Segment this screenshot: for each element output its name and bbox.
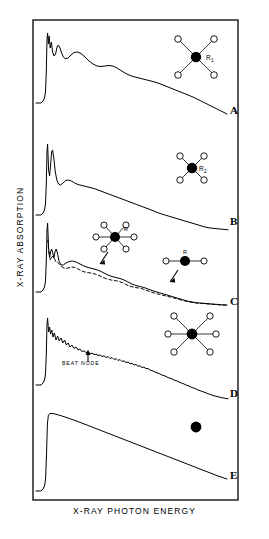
neighbor-atom	[93, 234, 99, 240]
molecule-cluster-b: R 2	[177, 153, 207, 183]
neighbor-atom	[131, 234, 137, 240]
neighbor-atom	[201, 177, 207, 183]
molecule-cluster-c-octahedral: R	[93, 222, 137, 265]
cluster-label-c2: R	[183, 249, 187, 255]
neighbor-atom	[165, 331, 171, 337]
neighbor-atom	[211, 36, 218, 43]
neighbor-atom	[101, 222, 107, 228]
y-axis-label: X-RAY ABSORPTION	[15, 157, 25, 317]
neighbor-atom	[201, 153, 207, 159]
spectrum-curve-d	[36, 318, 228, 399]
panel-letter-d: D	[230, 388, 238, 399]
cluster-label-a-sub: 1	[211, 58, 214, 63]
neighbor-atom	[171, 349, 177, 355]
spectrum-curve-e	[36, 414, 227, 492]
neighbor-atom	[177, 177, 183, 183]
absorber-atom	[187, 329, 198, 340]
isolated-absorber-atom	[191, 422, 202, 433]
molecule-cluster-a: R 1	[175, 36, 218, 79]
neighbor-atom	[101, 246, 107, 252]
absorber-atom	[180, 256, 190, 266]
neighbor-atom	[207, 349, 213, 355]
neighbor-atom	[211, 72, 218, 79]
absorber-atom	[187, 163, 197, 173]
figure-canvas: R 1 R 2	[0, 0, 269, 539]
neighbor-atom	[201, 258, 207, 264]
molecule-cluster-d	[165, 313, 219, 355]
absorber-atom	[110, 232, 120, 242]
neighbor-atom	[123, 246, 129, 252]
cluster-label-b-sub: 2	[204, 169, 207, 174]
spectrum-curve-a	[36, 33, 227, 114]
panel-letter-b: B	[230, 216, 237, 227]
molecule-cluster-c-linear: R	[163, 249, 207, 283]
beat-node-label: BEAT NODE	[62, 360, 100, 366]
panel-letter-c: C	[230, 296, 238, 307]
neighbor-atom	[163, 258, 169, 264]
cluster-label-c1: R	[124, 226, 128, 232]
neighbor-atom	[175, 72, 182, 79]
xafs-figure: X-RAY ABSORPTION X-RAY PHOTON ENERGY A B…	[0, 0, 269, 539]
spectrum-curve-c-dashed	[48, 240, 226, 305]
neighbor-atom	[177, 153, 183, 159]
panel-letter-e: E	[230, 470, 237, 481]
spectrum-curve-b	[36, 144, 228, 230]
panel-letter-a: A	[230, 105, 238, 116]
neighbor-atom	[207, 313, 213, 319]
neighbor-atom	[213, 331, 219, 337]
neighbor-atom	[175, 36, 182, 43]
absorber-atom	[191, 52, 201, 62]
x-axis-label: X-RAY PHOTON ENERGY	[0, 506, 269, 516]
neighbor-atom	[171, 313, 177, 319]
